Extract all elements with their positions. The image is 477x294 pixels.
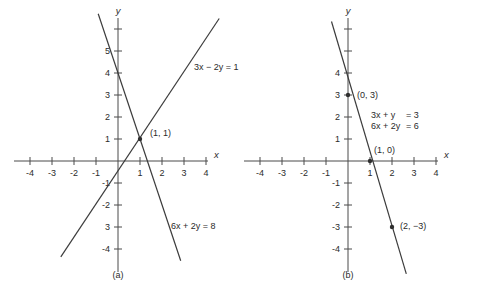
panel-a-ytick-label-4: 4 [105,68,110,78]
panel-b-caption: (b) [343,270,354,280]
panel-b-xtick-label-2: 2 [389,168,394,178]
panel-b: -4 -3 -2 -1 1 2 3 4 4 3 2 1 -1 -2 -3 -4 … [244,5,450,280]
panel-a-ytick-label--4: -4 [102,244,110,254]
panel-a-intersection-point [138,137,142,141]
panel-a-xtick-label--3: -3 [48,168,56,178]
panel-b-ytick-label--3: -3 [332,222,340,232]
panel-a-ytick-label--1: -1 [102,178,110,188]
panel-a-x-axis-letter: x [213,149,220,160]
panel-b-ytick-label--2: -2 [332,200,340,210]
panel-b-ytick-label-1: 1 [335,134,340,144]
panel-b-ytick-label-4: 4 [335,68,340,78]
panel-a-xtick-label--4: -4 [26,168,34,178]
panel-a-xtick-label--2: -2 [70,168,78,178]
panel-a-equation-label-2: 6x + 2y = 8 [171,221,216,231]
panel-b-equation-line-2-lhs: 6x + 2y [371,121,401,131]
panel-b-equation-line-1-lhs: 3x + y [371,110,396,120]
panel-b-xtick-label--2: -2 [300,168,308,178]
panel-b-xtick-label--1: -1 [322,168,330,178]
panel-a-caption: (a) [113,270,124,280]
panel-b-point-2-neg3 [390,225,394,229]
panel-b-point-label-1-0: (1, 0) [374,145,395,155]
panel-b-ytick-label--1: -1 [332,178,340,188]
panel-a-xtick-label--1: -1 [92,168,100,178]
panel-a-ytick-label--3: 3 [105,222,110,232]
panel-b-ytick-label-2: 2 [335,112,340,122]
panel-a-xtick-label-2: 2 [159,168,164,178]
panel-a-ytick-label-3: 3 [105,90,110,100]
panel-b-xtick-label-1: 1 [367,168,372,178]
panel-a-ytick-label-1: 1 [105,134,110,144]
panel-b-point-label-2-neg3: (2, −3) [400,221,426,231]
panel-b-ytick-label--4: -4 [332,244,340,254]
panel-b-y-axis-letter: y [345,5,352,16]
panel-a: -4 -3 -2 -1 1 2 3 4 5 4 3 2 1 -1 -2 3 -4… [14,5,239,280]
two-panel-line-graph-figure: -4 -3 -2 -1 1 2 3 4 5 4 3 2 1 -1 -2 3 -4… [0,0,477,294]
panel-a-equation-label-1: 3x − 2y = 1 [194,62,239,72]
panel-b-ytick-label-3: 3 [335,90,340,100]
panel-b-point-label-0-3: (0, 3) [357,90,378,100]
figure-container: -4 -3 -2 -1 1 2 3 4 5 4 3 2 1 -1 -2 3 -4… [0,0,477,294]
panel-b-xtick-label--3: -3 [278,168,286,178]
panel-b-xtick-label--4: -4 [256,168,264,178]
panel-a-xtick-label-3: 3 [181,168,186,178]
panel-b-xtick-label-4: 4 [433,168,438,178]
panel-b-equation-line-1-rhs: = 3 [406,110,419,120]
panel-a-point-label-1-1: (1, 1) [150,128,171,138]
panel-a-xtick-label-1: 1 [137,168,142,178]
panel-a-xtick-label-4: 4 [203,168,208,178]
panel-b-point-0-3 [346,93,350,97]
panel-a-y-axis-letter: y [115,5,122,16]
panel-a-ytick-label-2: 2 [105,112,110,122]
panel-b-equation-line-2-rhs: = 6 [406,121,419,131]
panel-b-x-axis-letter: x [443,149,450,160]
panel-b-line-3x-plus-y-3 [332,22,407,274]
panel-a-ytick-label--2: -2 [102,200,110,210]
panel-b-xtick-label-3: 3 [411,168,416,178]
panel-b-point-1-0 [368,159,372,163]
